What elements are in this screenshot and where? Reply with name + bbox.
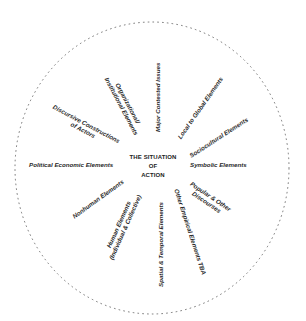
element-political-economic: Political Economic Elements [29,161,113,168]
element-label: Major Contested Issues [154,63,161,132]
element-label: Symbolic Elements [190,161,247,168]
center-title-line-1: THE SITUATION [0,153,306,161]
element-spatial-temporal: Spatial & Temporal Elements [157,202,164,287]
center-title-line-3: ACTION [0,171,306,179]
element-major-contested-issues: Major Contested Issues [154,63,161,132]
element-symbolic: Symbolic Elements [190,161,247,168]
element-label: Political Economic Elements [29,161,113,168]
element-label: Spatial & Temporal Elements [157,202,164,287]
